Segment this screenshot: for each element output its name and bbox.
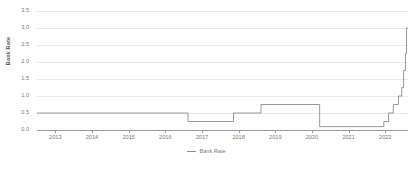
x-tick-mark-2020 xyxy=(312,130,313,133)
x-tick-label-2020: 2020 xyxy=(292,135,332,141)
x-tick-mark-2022 xyxy=(385,130,386,133)
x-tick-label-2018: 2018 xyxy=(219,135,259,141)
x-tick-label-2016: 2016 xyxy=(145,135,185,141)
x-tick-mark-2018 xyxy=(239,130,240,133)
chart-legend: Bank Rate xyxy=(0,149,413,155)
y-tick-label-2.0: 2.0 xyxy=(0,59,29,65)
y-tick-label-0.5: 0.5 xyxy=(0,110,29,116)
y-tick-label-2.5: 2.5 xyxy=(0,42,29,48)
series-line-bank-rate xyxy=(37,28,408,127)
x-tick-label-2021: 2021 xyxy=(329,135,369,141)
x-tick-label-2017: 2017 xyxy=(182,135,222,141)
y-tick-label-3.5: 3.5 xyxy=(0,8,29,14)
x-tick-label-2014: 2014 xyxy=(72,135,112,141)
x-tick-mark-2021 xyxy=(349,130,350,133)
series-bank-rate xyxy=(37,11,408,130)
x-tick-label-2022: 2022 xyxy=(365,135,405,141)
bank-rate-chart: Bank Rate 0.00.51.01.52.02.53.03.5 20132… xyxy=(0,0,413,169)
x-tick-label-2013: 2013 xyxy=(35,135,75,141)
legend-label-bank-rate: Bank Rate xyxy=(199,149,225,155)
y-tick-label-3.0: 3.0 xyxy=(0,25,29,31)
x-tick-mark-2017 xyxy=(202,130,203,133)
x-tick-mark-2015 xyxy=(129,130,130,133)
y-tick-label-1.0: 1.0 xyxy=(0,93,29,99)
x-tick-label-2019: 2019 xyxy=(255,135,295,141)
y-tick-label-1.5: 1.5 xyxy=(0,76,29,82)
x-tick-label-2015: 2015 xyxy=(109,135,149,141)
x-tick-mark-2013 xyxy=(55,130,56,133)
y-tick-label-0.0: 0.0 xyxy=(0,127,29,133)
plot-area: 0.00.51.01.52.02.53.03.5 201320142015201… xyxy=(37,11,408,130)
legend-line-swatch xyxy=(187,151,196,152)
x-tick-mark-2019 xyxy=(275,130,276,133)
x-tick-mark-2016 xyxy=(165,130,166,133)
x-tick-mark-2014 xyxy=(92,130,93,133)
